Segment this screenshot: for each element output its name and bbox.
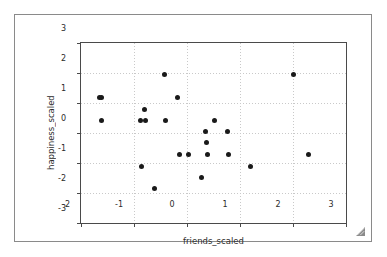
gridline-vertical: [134, 43, 135, 223]
x-tick-mark: [293, 223, 294, 227]
scatter-point: [177, 152, 182, 157]
scatter-point: [212, 118, 217, 123]
gridline-horizontal: [81, 103, 346, 104]
scatter-point: [248, 164, 253, 169]
x-tick-label: 0: [169, 200, 174, 209]
scatter-point: [99, 118, 104, 123]
scatter-point: [204, 140, 209, 145]
y-tick-mark: [77, 103, 81, 104]
scatter-point: [142, 107, 147, 112]
scatter-point: [162, 72, 167, 77]
scatter-point: [306, 152, 311, 157]
y-tick-mark: [77, 223, 81, 224]
y-tick-mark: [77, 43, 81, 44]
figure-card: -2-10123 -3-2-10123 friends_scaled happi…: [14, 14, 372, 242]
y-tick-label: -2: [58, 174, 66, 183]
scatter-point: [143, 118, 148, 123]
scatter-point: [99, 95, 104, 100]
scatter-point: [226, 152, 231, 157]
gridline-vertical: [187, 43, 188, 223]
y-tick-label: -1: [58, 144, 66, 153]
gridline-vertical: [240, 43, 241, 223]
x-axis-label: friends_scaled: [80, 236, 347, 246]
gridline-vertical: [293, 43, 294, 223]
x-tick-mark: [346, 223, 347, 227]
scatter-point: [205, 152, 210, 157]
x-tick-label: 2: [275, 200, 280, 209]
y-tick-mark: [77, 193, 81, 194]
y-tick-label: -3: [58, 204, 66, 213]
y-tick-mark: [77, 133, 81, 134]
y-tick-label: 0: [61, 114, 66, 123]
scatter-point: [291, 72, 296, 77]
gridline-horizontal: [81, 133, 346, 134]
x-tick-mark: [81, 223, 82, 227]
scatter-point: [199, 175, 204, 180]
resize-grip-icon[interactable]: [356, 227, 365, 236]
scatter-point: [139, 164, 144, 169]
x-tick-mark: [134, 223, 135, 227]
x-tick-mark: [187, 223, 188, 227]
y-tick-mark: [77, 73, 81, 74]
scatter-point: [152, 186, 157, 191]
x-tick-mark: [240, 223, 241, 227]
scatter-point: [163, 118, 168, 123]
y-tick-label: 1: [61, 84, 66, 93]
x-tick-label: -1: [115, 200, 123, 209]
screenshot-root: -2-10123 -3-2-10123 friends_scaled happi…: [0, 0, 387, 257]
x-tick-label: 3: [328, 200, 333, 209]
y-tick-label: 3: [61, 24, 66, 33]
scatter-point: [186, 152, 191, 157]
gridline-horizontal: [81, 163, 346, 164]
gridline-horizontal: [81, 193, 346, 194]
scatter-point: [138, 118, 143, 123]
y-tick-label: 2: [61, 54, 66, 63]
scatter-point: [175, 95, 180, 100]
y-axis-label: happiness_scaled: [46, 42, 56, 224]
y-tick-mark: [77, 163, 81, 164]
plot-area: [80, 42, 347, 224]
x-tick-label: 1: [222, 200, 227, 209]
gridline-horizontal: [81, 73, 346, 74]
